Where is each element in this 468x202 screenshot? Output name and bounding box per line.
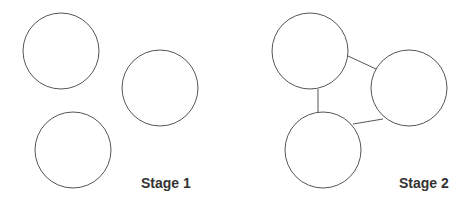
diagram-canvas (0, 0, 468, 202)
stage-2-group (272, 13, 447, 188)
stage-1-group (23, 13, 198, 188)
stage-2-circle-1 (272, 13, 348, 89)
stage-1-label: Stage 1 (141, 175, 191, 191)
stage-1-circle-3 (35, 112, 111, 188)
stage-1-circle-1 (23, 13, 99, 89)
stage-2-connector-1-2 (348, 56, 376, 69)
stage-2-label: Stage 2 (399, 175, 449, 191)
stage-2-circle-3 (285, 112, 361, 188)
stage-1-circle-2 (122, 50, 198, 126)
stage-2-connector-3-2 (353, 119, 383, 124)
stage-2-circle-2 (371, 50, 447, 126)
